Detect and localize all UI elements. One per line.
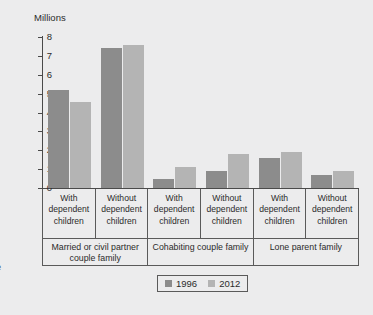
category-label-line: Without — [96, 193, 148, 204]
bar-1996-2 — [153, 179, 174, 188]
category-label-line: children — [148, 216, 200, 227]
bar-2012-1 — [123, 45, 144, 188]
bar-1996-5 — [311, 175, 332, 188]
chart-legend: 19962012 — [157, 275, 248, 292]
group-label: Married or civil partner couple family — [43, 239, 148, 266]
category-label: Withdependentchildren — [148, 189, 201, 238]
bar-group — [201, 37, 254, 188]
y-axis-label: Millions — [34, 12, 66, 23]
category-label-table: WithdependentchildrenWithoutdependentchi… — [42, 189, 359, 266]
legend-item-2012: 2012 — [208, 278, 240, 289]
plot-area — [43, 37, 359, 188]
category-label-line: dependent — [148, 204, 200, 215]
y-axis-tick-mark — [38, 169, 42, 170]
y-axis-tick-mark — [38, 75, 42, 76]
bar-group — [96, 37, 149, 188]
bar-group — [43, 37, 96, 188]
group-row: Married or civil partner couple familyCo… — [43, 238, 358, 266]
legend-swatch-icon — [208, 280, 215, 287]
category-row: WithdependentchildrenWithoutdependentchi… — [43, 189, 358, 238]
category-label-line: dependent — [254, 204, 306, 215]
category-label-line: dependent — [201, 204, 253, 215]
category-label-line: children — [254, 216, 306, 227]
bar-2012-5 — [333, 171, 354, 188]
category-label-line: dependent — [43, 204, 95, 215]
category-label-line: With — [148, 193, 200, 204]
y-axis-tick-mark — [38, 37, 42, 38]
bar-1996-0 — [48, 90, 69, 188]
bar-2012-4 — [281, 152, 302, 188]
category-label-line: dependent — [96, 204, 148, 215]
y-axis-tick-mark — [38, 150, 42, 151]
category-label-line: children — [201, 216, 253, 227]
legend-swatch-icon — [165, 280, 172, 287]
category-label: Withdependentchildren — [43, 189, 96, 238]
y-axis-tick-mark — [38, 56, 42, 57]
category-label: Withoutdependentchildren — [306, 189, 358, 238]
category-label-line: Without — [306, 193, 358, 204]
legend-label: 1996 — [176, 278, 197, 289]
y-axis-tick-mark — [38, 113, 42, 114]
bar-group — [306, 37, 359, 188]
category-label: Withdependentchildren — [254, 189, 307, 238]
bar-2012-0 — [70, 102, 91, 188]
bar-group — [148, 37, 201, 188]
category-label-line: Without — [201, 193, 253, 204]
category-label-line: With — [43, 193, 95, 204]
bar-group — [254, 37, 307, 188]
legend-item-1996: 1996 — [165, 278, 197, 289]
category-label-line: children — [306, 216, 358, 227]
category-label-line: dependent — [306, 204, 358, 215]
category-label: Withoutdependentchildren — [96, 189, 149, 238]
y-axis-tick-mark — [38, 131, 42, 132]
group-label: Lone parent family — [254, 239, 358, 266]
category-label-line: children — [96, 216, 148, 227]
category-label-line: With — [254, 193, 306, 204]
bar-1996-3 — [206, 171, 227, 188]
category-label: Withoutdependentchildren — [201, 189, 254, 238]
grouped-bar-chart: Millions 876543210 Withdependentchildren… — [0, 0, 373, 315]
bar-2012-2 — [175, 167, 196, 188]
category-label-line: children — [43, 216, 95, 227]
legend-label: 2012 — [219, 278, 240, 289]
bar-1996-1 — [101, 48, 122, 188]
bar-1996-4 — [259, 158, 280, 188]
bar-2012-3 — [228, 154, 249, 188]
group-label: Cohabiting couple family — [148, 239, 253, 266]
y-axis-tick-mark — [38, 94, 42, 95]
